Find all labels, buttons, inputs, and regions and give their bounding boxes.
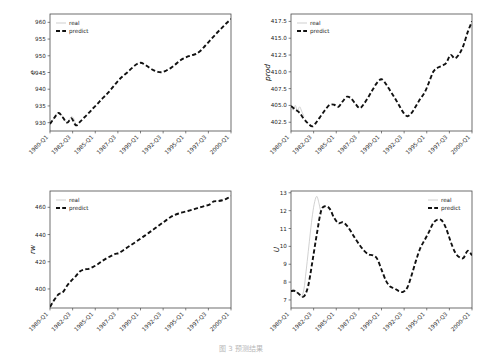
y-tick-label-U: 8 (283, 279, 287, 285)
legend-label-real-rw: real (69, 197, 80, 203)
x-tick-label-e: 1990-Q1 (118, 134, 140, 156)
y-tick-label-e: 950 (35, 53, 46, 59)
legend-label-real-e: real (69, 20, 80, 26)
x-tick-label-rw: 2000-Q1 (209, 311, 231, 333)
subplot-rw: 4004204404601980-Q11982-Q31985-Q11987-Q3… (0, 177, 241, 354)
legend-label-real-prod: real (310, 20, 321, 26)
x-tick-label-e: 1982-Q3 (50, 134, 72, 156)
y-tick-label-U: 11 (280, 226, 288, 232)
y-tick-label-rw: 420 (35, 259, 46, 265)
series-predict-prod (291, 21, 472, 126)
y-tick-label-prod: 410.0 (271, 69, 287, 75)
x-tick-label-prod: 2000-Q1 (450, 134, 472, 156)
subplot-U: 789101112131980-Q11982-Q31985-Q11987-Q31… (241, 177, 482, 354)
y-tick-label-e: 945 (35, 70, 46, 76)
plot-e: 9309359409459509559601980-Q11982-Q31985-… (0, 0, 241, 177)
x-tick-label-e: 1995-Q1 (163, 134, 185, 156)
x-tick-label-prod: 1990-Q1 (359, 134, 381, 156)
y-axis-title-e: e (28, 70, 37, 75)
x-tick-label-U: 1980-Q1 (269, 311, 291, 333)
y-tick-label-rw: 400 (35, 286, 46, 292)
y-axis-title-U: U (272, 246, 281, 252)
y-tick-label-rw: 460 (35, 204, 46, 210)
x-tick-label-rw: 1987-Q3 (96, 311, 118, 333)
series-real-U (291, 196, 321, 296)
legend-label-predict-rw: predict (69, 205, 89, 212)
x-tick-label-U: 1982-Q3 (291, 311, 313, 333)
plot-U: 789101112131980-Q11982-Q31985-Q11987-Q31… (241, 177, 482, 354)
y-axis-title-prod: prod (263, 64, 272, 82)
x-tick-label-rw: 1995-Q1 (163, 311, 185, 333)
subplot-e: 9309359409459509559601980-Q11982-Q31985-… (0, 0, 241, 177)
x-tick-label-U: 1985-Q1 (314, 311, 336, 333)
x-tick-label-U: 1987-Q3 (337, 311, 359, 333)
x-tick-label-U: 1997-Q3 (427, 311, 449, 333)
y-tick-label-U: 7 (283, 297, 287, 303)
x-tick-label-e: 1997-Q3 (186, 134, 208, 156)
x-tick-label-rw: 1992-Q3 (141, 311, 163, 333)
series-predict-U (291, 206, 472, 297)
x-tick-label-e: 1980-Q1 (28, 134, 50, 156)
subplot-prod: 402.5405.0407.5410.0412.5415.0417.51980-… (241, 0, 482, 177)
figure-container: 9309359409459509559601980-Q11982-Q31985-… (0, 0, 482, 354)
y-tick-label-U: 10 (280, 243, 288, 249)
y-tick-label-prod: 412.5 (271, 52, 287, 58)
x-tick-label-prod: 1997-Q3 (427, 134, 449, 156)
x-tick-label-rw: 1980-Q1 (28, 311, 50, 333)
y-tick-label-rw: 440 (35, 232, 46, 238)
x-tick-label-rw: 1997-Q3 (186, 311, 208, 333)
x-tick-label-U: 2000-Q1 (450, 311, 472, 333)
y-tick-label-e: 940 (35, 86, 46, 92)
x-tick-label-U: 1992-Q3 (382, 311, 404, 333)
legend-label-real-U: real (441, 197, 452, 203)
x-tick-label-prod: 1985-Q1 (314, 134, 336, 156)
y-tick-label-U: 12 (280, 208, 287, 214)
y-tick-label-prod: 405.0 (271, 102, 287, 108)
legend-label-predict-U: predict (441, 205, 461, 212)
x-tick-label-prod: 1982-Q3 (291, 134, 313, 156)
x-tick-label-e: 1992-Q3 (141, 134, 163, 156)
x-tick-label-rw: 1982-Q3 (50, 311, 72, 333)
x-tick-label-prod: 1987-Q3 (337, 134, 359, 156)
x-tick-label-prod: 1995-Q1 (404, 134, 426, 156)
x-tick-label-e: 2000-Q1 (209, 134, 231, 156)
x-tick-label-U: 1995-Q1 (404, 311, 426, 333)
x-tick-label-prod: 1980-Q1 (269, 134, 291, 156)
x-tick-label-prod: 1992-Q3 (382, 134, 404, 156)
x-tick-label-e: 1985-Q1 (73, 134, 95, 156)
x-tick-label-U: 1990-Q1 (359, 311, 381, 333)
y-tick-label-e: 960 (35, 19, 46, 25)
y-tick-label-e: 930 (35, 120, 46, 126)
x-tick-label-rw: 1985-Q1 (73, 311, 95, 333)
y-tick-label-prod: 402.5 (271, 119, 287, 125)
plot-prod: 402.5405.0407.5410.0412.5415.0417.51980-… (241, 0, 482, 177)
series-group-prod (291, 21, 472, 126)
y-tick-label-e: 955 (35, 36, 46, 42)
y-tick-label-prod: 417.5 (271, 18, 287, 24)
y-tick-label-U: 9 (283, 261, 287, 267)
x-tick-label-rw: 1990-Q1 (118, 311, 140, 333)
legend-label-predict-e: predict (69, 28, 89, 35)
legend-U: realpredict (425, 194, 469, 213)
legend-label-predict-prod: predict (310, 28, 330, 35)
x-tick-label-e: 1987-Q3 (96, 134, 118, 156)
y-axis-title-rw: rw (28, 244, 37, 254)
y-tick-label-prod: 407.5 (271, 86, 287, 92)
legend-prod: realpredict (294, 17, 338, 36)
y-tick-label-U: 13 (280, 190, 288, 196)
y-tick-label-prod: 415.0 (271, 35, 287, 41)
y-tick-label-e: 935 (35, 103, 46, 109)
plot-rw: 4004204404601980-Q11982-Q31985-Q11987-Q3… (0, 177, 241, 354)
figure-caption: 图 3 预测结果 (0, 344, 482, 354)
legend-rw: realpredict (53, 194, 97, 213)
legend-e: realpredict (53, 17, 97, 36)
